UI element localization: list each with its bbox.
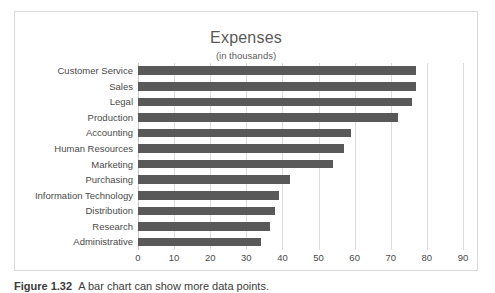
x-tick-label: 70 [385,252,396,263]
category-label: Administrative [15,234,133,250]
bar-row[interactable] [138,141,463,157]
category-label: Information Technology [15,188,133,204]
bar[interactable] [138,160,333,169]
bar[interactable] [138,144,344,153]
bar[interactable] [138,207,275,216]
bar[interactable] [138,222,270,231]
category-label: Research [15,219,133,235]
bar-row[interactable] [138,188,463,204]
bar-row[interactable] [138,203,463,219]
bar[interactable] [138,191,279,200]
x-axis-tick-labels: 0102030405060708090 [138,252,463,268]
chart-title: Expenses [15,29,477,47]
bar[interactable] [138,238,261,247]
x-tick-label: 30 [241,252,252,263]
bar[interactable] [138,175,290,184]
x-tick-label: 80 [422,252,433,263]
figure-caption-label: Figure 1.32 [14,280,72,292]
category-label: Accounting [15,125,133,141]
bar-row[interactable] [138,125,463,141]
chart-container: Expenses (in thousands) Customer Service… [14,11,478,271]
y-axis-category-labels: Customer ServiceSalesLegalProductionAcco… [15,63,133,250]
bar-row[interactable] [138,157,463,173]
bar[interactable] [138,113,398,122]
bar-row[interactable] [138,94,463,110]
figure-caption: Figure 1.32 A bar chart can show more da… [14,280,484,292]
x-tick-label: 90 [458,252,469,263]
bar-row[interactable] [138,79,463,95]
bar-series [138,63,463,250]
bar-row[interactable] [138,110,463,126]
category-label: Sales [15,79,133,95]
x-tick-label: 50 [313,252,324,263]
category-label: Distribution [15,203,133,219]
bar-row[interactable] [138,172,463,188]
x-tick-label: 20 [205,252,216,263]
bar[interactable] [138,66,416,75]
gridline-90 [463,63,464,250]
category-label: Marketing [15,157,133,173]
category-label: Legal [15,94,133,110]
bar[interactable] [138,82,416,91]
category-label: Purchasing [15,172,133,188]
bar-row[interactable] [138,234,463,250]
figure-caption-text: A bar chart can show more data points. [78,280,269,292]
bar-row[interactable] [138,219,463,235]
chart-subtitle: (in thousands) [15,50,477,61]
category-label: Customer Service [15,63,133,79]
bar[interactable] [138,129,351,138]
plot-area [138,63,463,250]
category-label: Human Resources [15,141,133,157]
x-tick-label: 60 [349,252,360,263]
x-tick-label: 40 [277,252,288,263]
bar[interactable] [138,98,412,107]
x-tick-label: 0 [135,252,140,263]
category-label: Production [15,110,133,126]
bar-row[interactable] [138,63,463,79]
x-tick-label: 10 [169,252,180,263]
